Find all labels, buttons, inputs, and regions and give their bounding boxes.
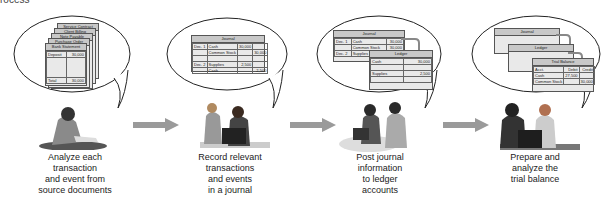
ledger-document: Ledger Cash30,000 Supplies2,500 [369,50,433,90]
source-document-bank-statement: Bank Statement Deposit30,000 Total30,000 [45,43,87,86]
person-analyzing-illustration [38,100,108,150]
step-record: Journal Dec. 1Cash30,000 Common Stock30,… [155,0,305,207]
step-trial-balance: Journal Ledger Trial Balance Acct.DebitC… [460,0,609,207]
two-people-trial-balance-illustration [490,96,580,152]
caption-trial-balance: Prepare and analyze the trial balance [470,152,600,185]
two-people-recording-illustration [190,96,270,150]
journal-document: Journal Dec. 1Cash30,000 Common Stock30,… [191,35,265,72]
step-analyze: Service Contract Client Billing Note Pay… [0,0,150,207]
caption-analyze: Analyze each transaction and event from … [10,152,140,196]
caption-record: Record relevant transactions and events … [165,152,295,196]
trial-balance-document: Trial Balance Acct.DebitCredit Cash27,50… [532,58,594,92]
caption-post: Post journal information to ledger accou… [315,152,445,196]
two-people-posting-illustration [333,96,423,152]
step-post: Journal Dec. 1Cash30,000 Common Stock30,… [305,0,455,207]
